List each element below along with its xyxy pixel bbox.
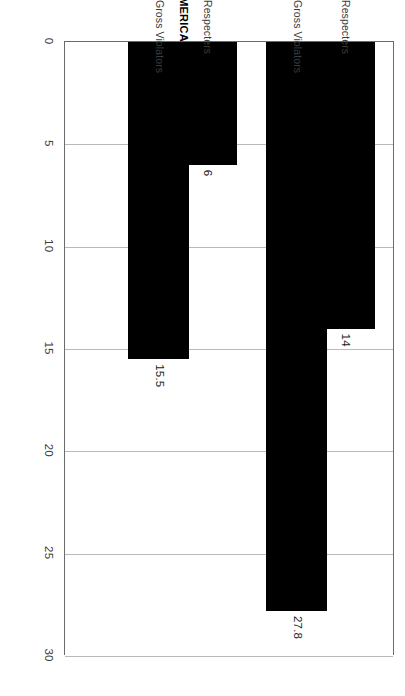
bar-value-label: 6	[202, 170, 214, 177]
category-label: Respecters	[202, 0, 214, 35]
axis-tick-label: 15	[43, 341, 55, 354]
axis-tick-label: 10	[43, 239, 55, 252]
category-label: Respecters	[340, 0, 352, 35]
plot-area	[64, 41, 394, 655]
category-label: Gross Violators	[292, 0, 304, 35]
axis-tick-label: 0	[43, 38, 55, 45]
bar-value-label: 14	[340, 334, 352, 347]
bar-value-label: 15.5	[154, 364, 166, 387]
axis-tick-label: 25	[43, 546, 55, 559]
group-label: AFRICA/W/SW	[316, 0, 328, 22]
bar-chart: 051015202530 RespectersGross ViolatorsRe…	[0, 0, 405, 696]
gridline	[65, 656, 393, 657]
bar	[267, 42, 328, 611]
category-label: Gross Violators	[154, 0, 166, 35]
chart-rotation-stage: 051015202530 RespectersGross ViolatorsRe…	[0, 0, 405, 696]
gridline	[65, 349, 393, 350]
group-label: CARIBBEAN & CENTRAL AMERICA	[178, 0, 190, 22]
gridline	[65, 554, 393, 555]
bar-value-label: 27.8	[292, 616, 304, 639]
axis-tick-label: 20	[43, 444, 55, 457]
axis-tick-label: 5	[43, 140, 55, 147]
bar	[129, 42, 190, 359]
axis-tick-label: 30	[43, 648, 55, 661]
gridline	[65, 451, 393, 452]
